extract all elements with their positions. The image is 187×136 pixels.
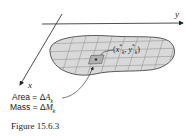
y-axis	[42, 23, 183, 24]
region-shape	[50, 36, 175, 76]
point-label: (x*k, y*k)	[113, 43, 140, 55]
mass-label: Mass = ΔMk	[10, 103, 56, 116]
y-axis-label: y	[175, 9, 179, 19]
x-axis-label: x	[28, 80, 32, 90]
figure-caption: Figure 15.6.3	[11, 121, 59, 131]
sample-point	[95, 58, 97, 60]
